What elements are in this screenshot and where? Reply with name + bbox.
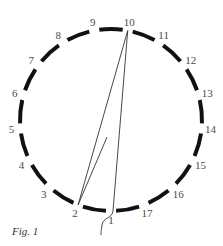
circle-segment: [20, 100, 22, 123]
point-labels: 1234567891011121314151617: [9, 16, 217, 226]
point-label: 13: [202, 87, 214, 99]
point-label: 10: [124, 16, 136, 28]
point-label: 3: [41, 188, 47, 200]
circle-segment: [54, 191, 74, 203]
point-label: 11: [158, 29, 169, 41]
circle-segment: [42, 45, 59, 61]
point-label: 6: [12, 87, 18, 99]
circle-segment: [99, 29, 122, 30]
point-label: 12: [185, 54, 196, 66]
point-label: 14: [205, 123, 217, 135]
point-label: 5: [9, 123, 15, 135]
circle-segments: [20, 29, 202, 211]
circle-segment: [133, 32, 155, 40]
circle-segment: [67, 32, 89, 40]
circle-segment: [176, 165, 190, 184]
circle-segment: [149, 191, 169, 203]
point-label: 9: [90, 16, 96, 28]
point-label: 17: [142, 207, 154, 219]
circle-segment: [83, 207, 106, 211]
thread-lines: [78, 31, 128, 235]
point-label: 1: [108, 214, 114, 226]
circle-segment: [163, 45, 180, 61]
thread-line: [78, 137, 107, 205]
point-label: 2: [72, 207, 78, 219]
circle-segment: [21, 133, 27, 156]
circle-segment: [25, 69, 35, 90]
figure-caption: Fig. 1: [12, 225, 38, 237]
point-label: 16: [173, 188, 185, 200]
circle-segment: [200, 100, 202, 123]
circle-segment: [187, 69, 197, 90]
circle-segment: [195, 133, 201, 156]
point-label: 15: [195, 159, 207, 171]
point-label: 8: [56, 29, 62, 41]
point-label: 4: [19, 159, 25, 171]
circle-segment: [116, 207, 139, 211]
point-label: 7: [28, 54, 34, 66]
circle-segment: [32, 165, 46, 184]
string-art-diagram: 1234567891011121314151617: [0, 0, 223, 246]
